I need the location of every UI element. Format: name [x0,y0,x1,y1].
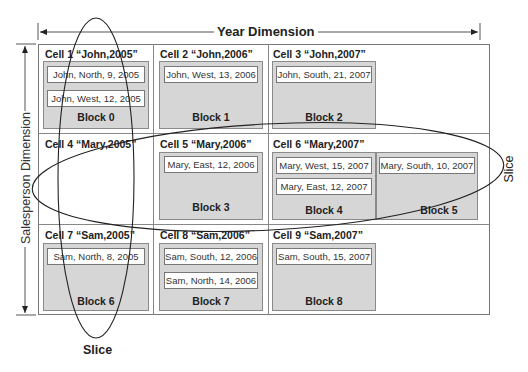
block-label: Block 6 [43,295,149,307]
grid-divider [153,44,154,315]
record: Mary, East, 12, 2006 [164,156,258,173]
block-label: Block 7 [159,295,263,307]
cell-3-title: Cell 3 “John,2007” [273,48,366,60]
record: John, South, 21, 2007 [276,66,372,83]
record: Sam, North, 8, 2005 [47,248,145,265]
cell-7-title: Cell 7 “Sam,2005” [45,229,135,241]
record: Sam, North, 14, 2006 [164,272,258,289]
record: Sam, South, 15, 2007 [276,248,372,265]
vertical-slice-label: Slice [83,343,112,357]
block-label: Block 4 [272,204,376,216]
block-label: Block 1 [159,111,263,123]
record: John, North, 9, 2005 [47,66,145,83]
record: Sam, South, 12, 2006 [164,248,258,265]
record: Mary, West, 15, 2007 [276,157,372,174]
grid-divider [38,133,490,134]
record: Mary, South, 10, 2007 [379,157,475,174]
grid-divider [268,44,269,315]
record: John, West, 12, 2005 [47,90,145,107]
record: Mary, East, 12, 2007 [276,178,372,195]
block-label: Block 3 [159,201,263,213]
year-dimension-label: Year Dimension [214,24,318,39]
horizontal-slice-label: Slice [502,155,516,182]
cell-5-title: Cell 5 “Mary,2006” [160,138,251,150]
cell-2-title: Cell 2 “John,2006” [160,48,253,60]
block-label: Block 5 [400,204,478,216]
block-label: Block 8 [272,295,376,307]
block-label: Block 2 [272,111,376,123]
record: John, West, 13, 2006 [164,66,258,83]
cell-9-title: Cell 9 “Sam,2007” [273,229,363,241]
cell-8-title: Cell 8 “Sam,2006” [160,229,250,241]
cell-6-title: Cell 6 “Mary,2007” [273,138,364,150]
block-label: Block 0 [43,111,149,123]
cell-1-title: Cell 1 “John,2005” [45,48,138,60]
grid-divider [38,224,490,225]
salesperson-dimension-label: Salesperson Dimension [19,111,33,247]
cell-4-title: Cell 4 “Mary,2005” [45,138,136,150]
